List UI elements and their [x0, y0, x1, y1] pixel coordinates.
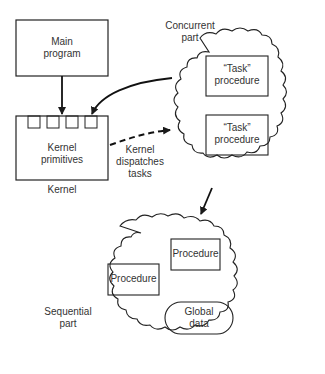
dispatch-line2: dispatches [110, 156, 170, 168]
dispatch-line1: Kernel [110, 144, 170, 156]
task-2-line1: “Task” [206, 122, 268, 134]
main-program-line2: program [16, 48, 108, 60]
concurrent-caption-line1: Concurrent [162, 20, 218, 32]
concurrent-to-sequential-arrow [201, 188, 212, 214]
task-2-line2: procedure [206, 134, 268, 146]
task-procedure-label-1: “Task” procedure [206, 63, 268, 87]
global-data-line2: data [165, 318, 233, 330]
procedure-label-2: Procedure [171, 248, 220, 260]
sequential-caption-line1: Sequential [38, 306, 98, 318]
procedure-label-1: Procedure [108, 273, 159, 285]
main-program-label: Main program [16, 36, 108, 60]
task-1-line1: “Task” [206, 63, 268, 75]
concurrent-caption-line2: part [162, 32, 218, 44]
global-data-label: Global data [165, 306, 233, 330]
sequential-part-caption: Sequential part [38, 306, 98, 330]
dispatch-arrow [110, 130, 170, 145]
kernel-box-label: Kernel primitives [16, 142, 108, 166]
task-procedure-label-2: “Task” procedure [206, 122, 268, 146]
kernel-box-line2: primitives [16, 154, 108, 166]
task-1-line2: procedure [206, 75, 268, 87]
main-program-line1: Main [16, 36, 108, 48]
sequential-caption-line2: part [38, 318, 98, 330]
dispatch-label: Kernel dispatches tasks [110, 144, 170, 180]
kernel-caption: Kernel [16, 184, 108, 196]
kernel-entry-slots [28, 116, 97, 128]
concurrent-part-caption: Concurrent part [162, 20, 218, 44]
dispatch-line3: tasks [110, 168, 170, 180]
kernel-box-line1: Kernel [16, 142, 108, 154]
global-data-line1: Global [165, 306, 233, 318]
task-call-arrow [92, 78, 172, 114]
